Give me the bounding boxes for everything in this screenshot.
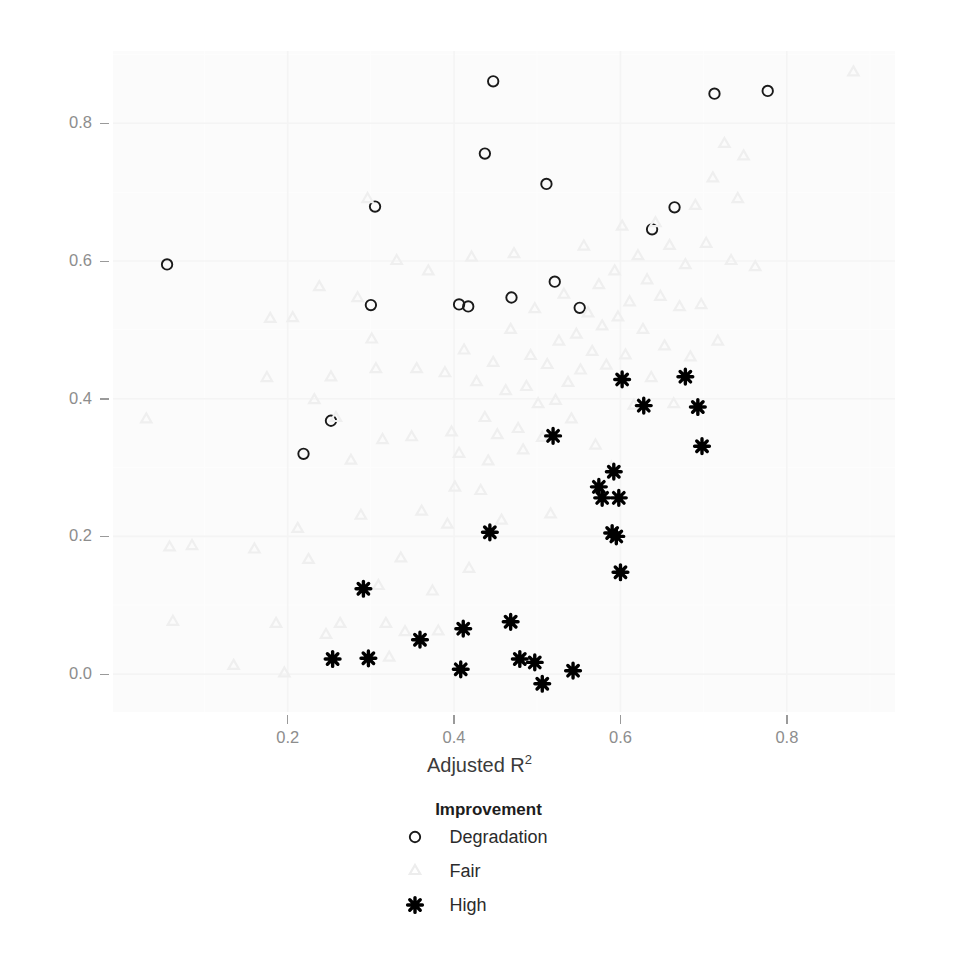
data-point (696, 299, 706, 308)
data-point (709, 88, 719, 98)
data-point (416, 506, 426, 515)
data-point (527, 655, 542, 670)
open-circle-icon (398, 822, 432, 852)
data-point (509, 248, 519, 257)
y-tick-label: 0.8 (30, 113, 92, 132)
data-point (446, 426, 456, 435)
data-point (613, 565, 628, 580)
y-tick-mark (100, 398, 109, 399)
series-fair (141, 66, 859, 676)
data-point (464, 563, 474, 572)
data-point (377, 434, 387, 443)
data-point (413, 632, 428, 647)
data-point (726, 255, 736, 264)
x-axis-title: Adjusted R2 (0, 752, 959, 777)
data-point (713, 336, 723, 345)
data-point (733, 193, 743, 202)
data-point (542, 359, 552, 368)
data-point (228, 660, 238, 669)
y-tick-mark (100, 261, 109, 262)
data-point (695, 439, 710, 454)
x-axis-title-superscript: 2 (525, 752, 532, 767)
legend: Improvement DegradationFairHigh (0, 800, 959, 922)
data-point (400, 626, 410, 635)
x-tick-label: 0.8 (747, 728, 827, 747)
data-point (678, 369, 693, 384)
legend-item-fair[interactable]: Fair (380, 854, 580, 888)
y-tick-label: 0.6 (30, 251, 92, 270)
data-point (636, 398, 651, 413)
data-point (611, 490, 626, 505)
data-point (326, 371, 336, 380)
data-point (384, 652, 394, 661)
legend-item-high[interactable]: High (380, 888, 580, 922)
data-point (546, 428, 561, 443)
data-point (525, 350, 535, 359)
legend-marker (407, 898, 422, 913)
data-point (249, 544, 259, 553)
data-point (719, 138, 729, 147)
y-tick-label: 0.0 (30, 664, 92, 683)
data-point (476, 485, 486, 494)
data-point (655, 291, 665, 300)
data-point (750, 261, 760, 270)
data-point (738, 150, 748, 159)
data-point (708, 172, 718, 181)
data-point (624, 296, 634, 305)
data-point (352, 292, 362, 301)
data-point (168, 616, 178, 625)
data-point (690, 200, 700, 209)
data-point (545, 508, 555, 517)
y-tick-label: 0.2 (30, 526, 92, 545)
data-point (674, 301, 684, 310)
data-point (535, 676, 550, 691)
data-point (480, 412, 490, 421)
legend-item-label: Degradation (432, 827, 548, 848)
data-point (427, 586, 437, 595)
data-point (541, 179, 551, 189)
data-point (533, 398, 543, 407)
y-tick-mark (100, 123, 109, 124)
data-point (559, 289, 569, 298)
data-point (471, 376, 481, 385)
data-point (594, 279, 604, 288)
data-point (325, 652, 340, 667)
data-point (456, 621, 471, 636)
data-point (685, 351, 695, 360)
data-point (506, 292, 516, 302)
data-point (579, 241, 589, 250)
data-point (587, 346, 597, 355)
data-point (601, 360, 611, 369)
data-point (442, 519, 452, 528)
data-point (321, 629, 331, 638)
data-point (633, 250, 643, 259)
data-point (566, 413, 576, 422)
data-point (530, 303, 540, 312)
x-tick-label: 0.2 (248, 728, 328, 747)
data-point (563, 377, 573, 386)
data-point (664, 240, 674, 249)
data-point (620, 349, 630, 358)
data-point (361, 651, 376, 666)
legend-item-degradation[interactable]: Degradation (380, 820, 580, 854)
data-point (554, 336, 564, 345)
data-point (482, 525, 497, 540)
data-point (373, 580, 383, 589)
y-tick-label: 0.4 (30, 389, 92, 408)
data-point (367, 334, 377, 343)
legend-marker (409, 832, 419, 842)
x-tick-mark (786, 715, 787, 724)
data-point (356, 510, 366, 519)
legend-marker (409, 865, 419, 874)
asterisk-icon (398, 890, 432, 920)
data-point (406, 431, 416, 440)
data-point (459, 345, 469, 354)
x-tick-mark (453, 715, 454, 724)
data-point (659, 340, 669, 349)
data-point (566, 663, 581, 678)
data-point (288, 312, 298, 321)
data-point (488, 357, 498, 366)
data-point (466, 252, 476, 261)
y-tick-mark (100, 674, 109, 675)
gridlines (113, 51, 895, 712)
